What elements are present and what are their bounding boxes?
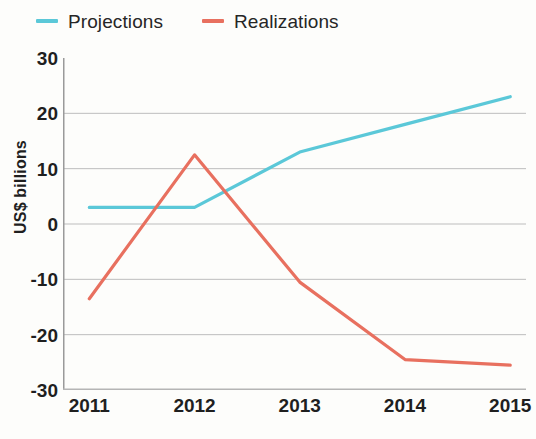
x-tick-label: 2015 xyxy=(475,396,536,415)
x-tick-label: 2012 xyxy=(160,396,230,415)
series-line-realizations xyxy=(89,155,510,365)
chart-svg xyxy=(63,58,526,390)
legend-label-projections: Projections xyxy=(68,12,163,31)
plot-area xyxy=(63,58,526,390)
y-tick-label: -20 xyxy=(24,326,58,345)
legend-swatch-realizations xyxy=(202,19,224,23)
chart-legend: Projections Realizations xyxy=(0,8,530,38)
y-tick-label: 0 xyxy=(24,215,58,234)
legend-item-realizations: Realizations xyxy=(202,8,339,34)
data-series xyxy=(89,97,510,365)
x-axis-tick-labels: 20112012201320142015 xyxy=(0,396,530,426)
gridlines xyxy=(63,113,526,334)
legend-label-realizations: Realizations xyxy=(234,12,339,31)
y-tick-label: 20 xyxy=(24,104,58,123)
y-tick-label: -10 xyxy=(24,270,58,289)
y-axis-tick-labels: 3020100-10-20-30 xyxy=(20,0,58,439)
y-tick-label: 10 xyxy=(24,160,58,179)
y-tick-label: 30 xyxy=(24,49,58,68)
x-tick-label: 2011 xyxy=(54,396,124,415)
x-tick-label: 2013 xyxy=(265,396,335,415)
x-tick-label: 2014 xyxy=(370,396,440,415)
